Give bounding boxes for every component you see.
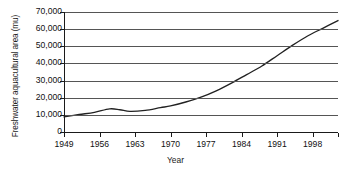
y-tick-mark [60, 98, 65, 99]
gridline-y [64, 46, 338, 47]
gridline-y [64, 29, 338, 30]
y-tick-label: 60,000 [18, 24, 62, 33]
x-axis-title: Year [0, 155, 351, 165]
y-tick-mark [60, 63, 65, 64]
y-tick-label: 50,000 [18, 41, 62, 50]
x-tick-mark [338, 133, 339, 137]
gridline-y [64, 81, 338, 82]
x-tick-mark [313, 133, 314, 137]
y-tick-label: 10,000 [18, 110, 62, 119]
gridline-y [64, 12, 338, 13]
y-tick-label: 30,000 [18, 76, 62, 85]
x-tick-mark [100, 133, 101, 137]
series-path [64, 21, 338, 117]
x-tick-label: 1956 [80, 139, 120, 149]
x-tick-mark [64, 133, 65, 137]
y-tick-label: 0 [18, 127, 62, 136]
y-tick-mark [60, 12, 65, 13]
x-tick-label: 1963 [115, 139, 155, 149]
y-tick-mark [60, 46, 65, 47]
x-tick-mark [277, 133, 278, 137]
y-tick-mark [60, 29, 65, 30]
x-tick-label: 1984 [222, 139, 262, 149]
plot-area [64, 12, 338, 132]
x-tick-mark [135, 133, 136, 137]
x-tick-mark [171, 133, 172, 137]
y-tick-label: 40,000 [18, 58, 62, 67]
x-tick-mark [206, 133, 207, 137]
x-tick-label: 1991 [257, 139, 297, 149]
x-tick-label: 1998 [293, 139, 333, 149]
y-tick-mark [60, 115, 65, 116]
x-axis-line [64, 132, 338, 133]
gridline-y [64, 63, 338, 64]
line-chart: Freshwater aquacultural area (mu) 70,000… [0, 0, 351, 175]
x-tick-mark [242, 133, 243, 137]
x-tick-label: 1949 [44, 139, 84, 149]
y-tick-label: 20,000 [18, 93, 62, 102]
x-tick-label: 1977 [186, 139, 226, 149]
x-axis-tick-labels: 19491956196319701977198419911998 [0, 139, 351, 151]
x-tick-label: 1970 [151, 139, 191, 149]
y-tick-mark [60, 81, 65, 82]
gridline-y [64, 98, 338, 99]
gridline-y [64, 115, 338, 116]
y-tick-label: 70,000 [18, 7, 62, 16]
